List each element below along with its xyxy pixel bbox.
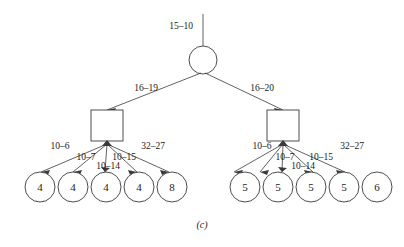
root-incoming-label: 15–10 <box>169 21 193 31</box>
right-leaf-2-value: 5 <box>275 181 281 193</box>
tree-diagram: 15–10 16–19 16–20 10–6 10–7 <box>0 0 404 247</box>
left-branch-label: 16–19 <box>134 83 158 93</box>
left-edge-label-4: 10–14 <box>96 161 120 171</box>
right-square <box>267 110 299 141</box>
diagram-canvas: 15–10 16–19 16–20 10–6 10–7 <box>0 0 404 247</box>
root-circle <box>189 46 217 74</box>
left-leaf-3-value: 4 <box>103 181 109 193</box>
right-leaf-5-value: 6 <box>374 181 380 193</box>
right-edge-label-5: 32–27 <box>340 141 364 151</box>
right-edge-label-4: 10–14 <box>291 161 315 171</box>
left-leaf-1-value: 4 <box>37 181 43 193</box>
left-edge-label-2: 10–7 <box>77 152 96 162</box>
left-leaf-2-value: 4 <box>70 181 76 193</box>
left-leaf-4-value: 4 <box>136 181 142 193</box>
right-leaf-3-value: 5 <box>308 181 314 193</box>
right-edge-label-1: 10–6 <box>253 141 272 151</box>
right-branch-label: 16–20 <box>250 83 274 93</box>
left-edge-label-5: 32–27 <box>141 141 165 151</box>
right-leaf-1-value: 5 <box>242 181 248 193</box>
figure-caption: (c) <box>196 219 208 231</box>
left-square <box>91 110 123 141</box>
right-leaf-4-value: 5 <box>341 181 347 193</box>
left-edge-label-1: 10–6 <box>51 141 70 151</box>
arrowhead-right-leaf-3 <box>278 167 287 172</box>
left-leaf-5-value: 8 <box>169 181 175 193</box>
